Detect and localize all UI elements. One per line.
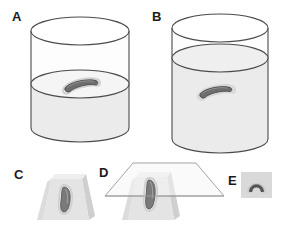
panel-label-d: D bbox=[99, 166, 108, 179]
panel-label-b: B bbox=[152, 10, 161, 23]
panel-label-c: C bbox=[14, 168, 23, 181]
panel-a-illustration bbox=[31, 17, 129, 142]
panel-b-illustration bbox=[172, 14, 268, 153]
beaker-b-rim-ellipse bbox=[172, 14, 268, 42]
beaker-b-liquid-surface bbox=[172, 44, 268, 72]
panel-e-illustration bbox=[241, 172, 272, 198]
panel-label-a: A bbox=[12, 10, 21, 23]
cutting-plane-d bbox=[105, 163, 224, 196]
panel-d-illustration bbox=[105, 163, 224, 220]
beaker-a-rim-ellipse bbox=[31, 17, 129, 45]
block-c-top-face bbox=[51, 174, 86, 179]
panel-c-illustration bbox=[37, 174, 95, 220]
panel-label-e: E bbox=[228, 174, 237, 187]
figure-canvas bbox=[0, 0, 281, 228]
scientific-figure: A B C D E bbox=[0, 0, 281, 228]
